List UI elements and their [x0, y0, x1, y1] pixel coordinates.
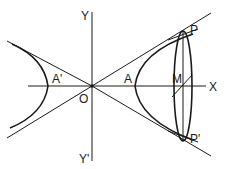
origin-point	[90, 84, 94, 88]
label-y-prime: Y'	[79, 152, 89, 166]
label-y: Y	[81, 9, 89, 23]
label-origin: O	[79, 92, 88, 106]
label-m: M	[172, 72, 182, 86]
label-p: P	[190, 23, 198, 37]
hyperbola-diagram: Y Y' X O A' A M P P'	[0, 0, 227, 169]
label-x: X	[209, 80, 217, 94]
label-p-prime: P'	[190, 132, 200, 146]
label-a: A	[124, 72, 132, 86]
hyperbola-right-branch	[135, 34, 193, 140]
label-a-prime: A'	[52, 72, 62, 86]
